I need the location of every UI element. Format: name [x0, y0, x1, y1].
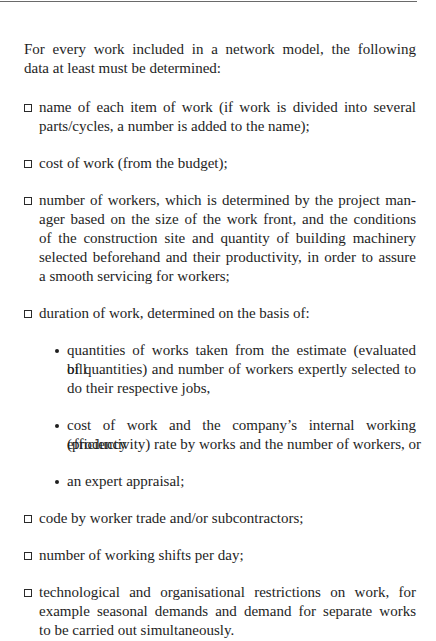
text-line: parts/cycles, a number is added to the n…: [39, 117, 416, 136]
list-item-duration: duration of work, determined on the basi…: [24, 304, 416, 491]
square-bullet-icon: [24, 589, 32, 597]
text-line: name of each item of work (if work is di…: [39, 98, 416, 117]
square-bullet-icon: [24, 104, 32, 112]
round-bullet-icon: [55, 424, 59, 428]
text-line: (productivity) rate by works and the num…: [67, 435, 416, 454]
square-bullet-icon: [24, 310, 32, 318]
round-bullet-icon: [55, 480, 59, 484]
document-body: For every work included in a network mod…: [24, 40, 416, 641]
text-line: a smooth servicing for workers;: [39, 267, 416, 286]
sublist-item-expert-appraisal: an expert appraisal;: [39, 472, 416, 491]
square-bullet-icon: [24, 197, 32, 205]
text-line: example seasonal demands and demand for …: [39, 602, 416, 621]
text-line: number of working shifts per day;: [39, 546, 416, 565]
text-line: data at least must be determined:: [24, 59, 416, 78]
list-item-shifts: number of working shifts per day;: [24, 546, 416, 565]
text-line: to be carried out simultaneously.: [39, 621, 416, 640]
text-line: code by worker trade and/or subcontracto…: [39, 509, 416, 528]
text-line: technological and organisational restric…: [39, 583, 416, 602]
text-line: cost of work and the company’s internal …: [67, 416, 416, 435]
text-line: number of workers, which is determined b…: [39, 191, 416, 210]
intro-paragraph: For every work included in a network mod…: [24, 40, 416, 78]
text-line: of quantities) and number of workers exp…: [67, 360, 416, 379]
duration-sublist: quantities of works taken from the estim…: [39, 341, 416, 491]
header-rule: [0, 1, 417, 2]
text-line: an expert appraisal;: [67, 472, 416, 491]
list-item-code: code by worker trade and/or subcontracto…: [24, 509, 416, 528]
text-line: cost of work (from the budget);: [39, 154, 416, 173]
text-line: ager based on the size of the work front…: [39, 210, 416, 229]
sublist-item-quantities: quantities of works taken from the estim…: [39, 341, 416, 398]
square-bullet-icon: [24, 552, 32, 560]
text-line: quantities of works taken from the estim…: [67, 341, 416, 360]
list-item-restrictions: technological and organisational restric…: [24, 583, 416, 640]
text-line: selected beforehand and their productivi…: [39, 248, 416, 267]
text-line: For every work included in a network mod…: [24, 40, 416, 59]
list-item-name: name of each item of work (if work is di…: [24, 98, 416, 136]
text-line: of the construction site and quantity of…: [39, 229, 416, 248]
text-line: do their respective jobs,: [67, 379, 416, 398]
round-bullet-icon: [55, 349, 59, 353]
list-item-cost: cost of work (from the budget);: [24, 154, 416, 173]
list-item-workers: number of workers, which is determined b…: [24, 191, 416, 286]
sublist-item-cost-efficiency: cost of work and the company’s internal …: [39, 416, 416, 454]
square-bullet-icon: [24, 160, 32, 168]
text-line: duration of work, determined on the basi…: [39, 304, 416, 323]
square-bullet-icon: [24, 515, 32, 523]
